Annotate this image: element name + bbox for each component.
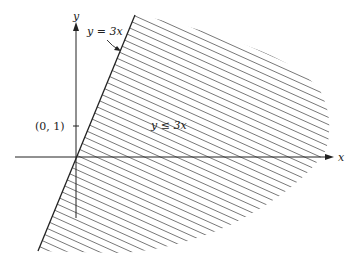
x-axis bbox=[15, 154, 334, 160]
shaded-region bbox=[0, 0, 348, 266]
pointer-arrow-icon bbox=[114, 46, 121, 51]
point-label: (0, 1) bbox=[35, 120, 65, 133]
y-axis-label: y bbox=[72, 10, 80, 23]
y-axis-arrow-icon bbox=[73, 22, 79, 31]
line-label: y = 3x bbox=[86, 25, 123, 38]
x-axis-label: x bbox=[338, 151, 345, 164]
x-axis-arrow-icon bbox=[325, 154, 334, 160]
region-label: y ≤ 3x bbox=[150, 119, 187, 132]
y-axis bbox=[73, 22, 79, 218]
label-pointer bbox=[107, 40, 121, 51]
